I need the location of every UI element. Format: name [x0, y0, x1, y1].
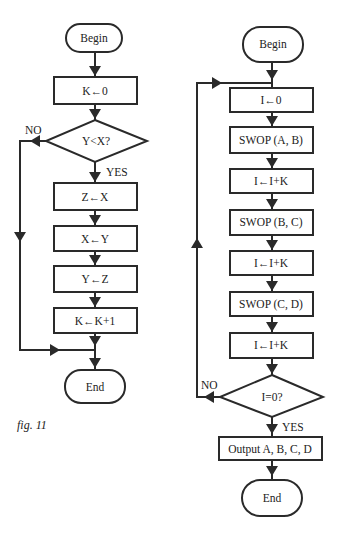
left-decision-no-label: NO	[25, 124, 42, 136]
right-step-label: I←0	[260, 94, 281, 106]
arrow-down-icon	[89, 66, 101, 76]
right-step-label: SWOP (A, B)	[239, 134, 303, 147]
arrow-down-icon	[266, 424, 278, 434]
arrow-down-icon	[266, 70, 278, 80]
right-end-label: End	[263, 492, 282, 504]
left-end-label: End	[86, 381, 105, 393]
right-decision-yes-label: YES	[282, 421, 304, 433]
left-decision-label: Y<X?	[82, 135, 110, 147]
right-output-label: Output A, B, C, D	[228, 443, 311, 456]
arrow-down-icon	[89, 297, 101, 307]
right-step-label: I←I+K	[254, 257, 289, 269]
arrow-down-icon	[266, 158, 278, 168]
arrow-down-icon	[89, 172, 101, 182]
right-step-label: I←I+K	[254, 339, 289, 351]
left-step-label: X←Y	[81, 233, 110, 245]
left-flowchart: Begin K←0 Y<X? NO YES Z←X X←Y Y←Z K←K+1 …	[14, 24, 147, 403]
left-init-label: K←0	[82, 85, 108, 97]
arrow-down-icon	[89, 109, 101, 119]
arrow-down-icon	[266, 116, 278, 126]
arrow-right-icon	[50, 344, 60, 356]
arrow-down-icon	[266, 240, 278, 250]
left-decision-yes-label: YES	[106, 166, 128, 178]
arrow-down-icon	[266, 281, 278, 291]
right-begin-label: Begin	[259, 38, 287, 51]
flowchart-figure: Begin K←0 Y<X? NO YES Z←X X←Y Y←Z K←K+1 …	[0, 0, 340, 533]
left-begin-label: Begin	[80, 32, 108, 45]
arrow-left-icon	[30, 135, 40, 147]
left-step-label: K←K+1	[75, 315, 116, 327]
arrow-down-icon	[89, 215, 101, 225]
arrow-down-icon	[266, 364, 278, 374]
right-decision-no-label: NO	[201, 379, 218, 391]
arrow-down-icon	[89, 255, 101, 265]
right-flowchart: Begin I←0 SWOP (A, B) I←I+K SWOP (B, C) …	[191, 27, 323, 516]
figure-caption: fig. 11	[17, 418, 47, 432]
right-decision-label: I=0?	[261, 391, 282, 403]
arrow-up-icon	[191, 238, 203, 248]
arrow-right-icon	[212, 77, 222, 89]
right-step-label: SWOP (B, C)	[239, 216, 302, 229]
left-step-label: Y←Z	[82, 273, 109, 285]
left-step-label: Z←X	[82, 191, 110, 203]
right-step-label: I←I+K	[254, 175, 289, 187]
arrow-down-icon	[89, 336, 101, 346]
arrow-down-icon	[14, 232, 26, 242]
right-step-label: SWOP (C, D)	[239, 298, 303, 311]
arrow-down-icon	[89, 358, 101, 368]
arrow-down-icon	[266, 199, 278, 209]
arrow-down-icon	[266, 322, 278, 332]
arrow-left-icon	[204, 391, 214, 403]
arrow-down-icon	[266, 466, 278, 476]
